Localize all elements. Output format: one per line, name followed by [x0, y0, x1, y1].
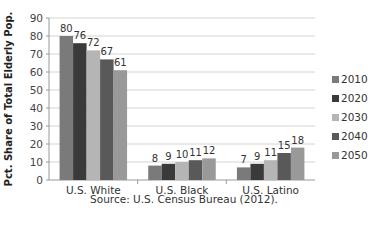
bar-2010 [148, 166, 162, 180]
y-tick-label: 90 [30, 12, 43, 24]
y-tick-label: 80 [30, 30, 43, 42]
bar-2020 [250, 164, 264, 180]
data-label: 72 [87, 37, 100, 48]
y-tick-label: 10 [30, 156, 43, 168]
legend-label: 2050 [341, 149, 368, 161]
legend-swatch [332, 152, 339, 159]
bar-2050 [291, 148, 305, 180]
data-label: 7 [240, 154, 246, 165]
bar-2020 [73, 43, 87, 180]
legend-label: 2010 [341, 73, 368, 85]
y-tick-label: 40 [30, 102, 43, 114]
data-label: 8 [152, 153, 158, 164]
bar-2030 [264, 160, 278, 180]
y-axis: 0102030405060708090 [30, 12, 49, 186]
data-label: 80 [60, 23, 73, 34]
legend-label: 2030 [341, 111, 368, 123]
bar-2010 [60, 36, 73, 180]
bar-2040 [277, 153, 291, 180]
legend-swatch [332, 76, 339, 83]
data-label: 9 [254, 151, 260, 162]
source-note: Source: U.S. Census Bureau (2012). [90, 193, 278, 205]
y-tick-label: 50 [30, 84, 43, 96]
y-tick-label: 70 [30, 48, 43, 60]
y-tick-label: 0 [36, 174, 43, 186]
y-tick-label: 20 [30, 138, 43, 150]
data-label: 67 [100, 46, 113, 57]
bar-2030 [175, 162, 189, 180]
data-label: 9 [165, 151, 171, 162]
legend-label: 2020 [341, 92, 368, 104]
bar-chart: 0102030405060708090 Pct. Share of Total … [0, 0, 379, 225]
bar-2040 [189, 160, 203, 180]
bars: 80767267618910111279111518 [60, 23, 305, 180]
bar-2010 [237, 167, 251, 180]
data-label: 15 [278, 140, 291, 151]
y-tick-label: 60 [30, 66, 43, 78]
bar-2050 [202, 158, 216, 180]
data-label: 76 [73, 30, 86, 41]
data-label: 12 [203, 145, 216, 156]
data-label: 11 [264, 147, 277, 158]
bar-2050 [114, 70, 128, 180]
data-label: 61 [114, 57, 127, 68]
bar-2020 [162, 164, 176, 180]
y-axis-title: Pct. Share of Total Elderly Pop. [3, 12, 14, 187]
legend-swatch [332, 133, 339, 140]
bar-2030 [87, 50, 101, 180]
data-label: 11 [189, 147, 202, 158]
y-tick-label: 30 [30, 120, 43, 132]
data-label: 18 [291, 135, 304, 146]
legend-swatch [332, 114, 339, 121]
legend-swatch [332, 95, 339, 102]
legend: 20102020203020402050 [332, 73, 368, 161]
bar-2040 [100, 59, 114, 180]
legend-label: 2040 [341, 130, 368, 142]
data-label: 10 [176, 149, 189, 160]
